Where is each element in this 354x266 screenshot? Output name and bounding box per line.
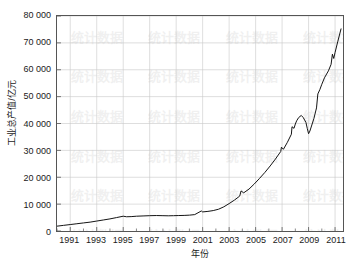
y-axis-tick-label: 0: [46, 228, 51, 237]
x-axis-tick-label: 2003: [219, 236, 239, 245]
x-axis-tick-label: 2011: [326, 236, 345, 245]
y-axis-tick-label: 50 000: [23, 92, 51, 101]
plot-area: 统计数据统计数据统计数据统计数据统计数据统计数据统计数据统计数据统计数据统计数据…: [56, 15, 344, 232]
x-axis-tick-label: 1999: [166, 236, 186, 245]
y-axis-tick-label: 60 000: [23, 65, 51, 74]
x-axis-tick-label: 2007: [273, 236, 293, 245]
x-axis-tick-label: 1991: [59, 236, 79, 245]
x-axis-tick-label: 2005: [246, 236, 266, 245]
y-axis-tick-label: 40 000: [23, 119, 51, 128]
y-axis-tick-labels: 80 00070 00060 00050 00040 00030 00020 0…: [0, 15, 51, 232]
x-axis-tick-labels: 1991199319951997199920012003200520072009…: [56, 236, 344, 248]
chart-figure: 工业总产值/亿元 80 00070 00060 00050 00040 0003…: [0, 0, 354, 266]
y-axis-tick-label: 70 000: [23, 38, 51, 47]
x-axis-tick-label: 1997: [139, 236, 159, 245]
y-axis-tick-label: 10 000: [23, 200, 51, 209]
y-axis-tick-label: 30 000: [23, 146, 51, 155]
x-axis-tick-label: 2009: [299, 236, 319, 245]
y-axis-tick-label: 20 000: [23, 173, 51, 182]
x-axis-tick-label: 2001: [193, 236, 213, 245]
x-axis-title: 年份: [56, 249, 344, 259]
x-axis-tick-label: 1993: [86, 236, 106, 245]
y-axis-tick-label: 80 000: [23, 11, 51, 20]
x-axis-tick-label: 1995: [113, 236, 133, 245]
data-series-line: [57, 16, 343, 231]
